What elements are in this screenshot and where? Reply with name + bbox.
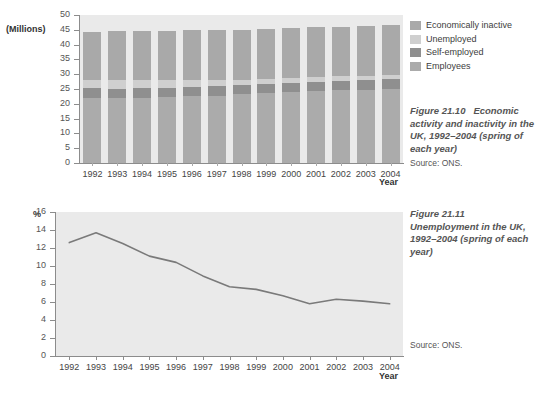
bar-column bbox=[233, 15, 251, 163]
bar-segment-economically-inactive bbox=[357, 26, 375, 75]
bar-chart-y-tick bbox=[74, 119, 79, 120]
line-chart-y-tick-label: 14 bbox=[24, 225, 46, 234]
bar-chart-x-tick bbox=[291, 163, 292, 166]
line-chart-y-tick-label: 0 bbox=[24, 351, 46, 360]
bar-segment-unemployed bbox=[208, 80, 226, 86]
bar-chart-x-tick bbox=[217, 163, 218, 166]
bar-chart-x-tick bbox=[167, 163, 168, 166]
bar-segment-employees bbox=[257, 93, 275, 163]
bar-column bbox=[208, 15, 226, 163]
bar-chart-x-tick bbox=[117, 163, 118, 166]
line-chart-x-tick bbox=[123, 356, 124, 360]
bar-segment-economically-inactive bbox=[282, 28, 300, 78]
bar-chart-unit-label: (Millions) bbox=[6, 24, 46, 34]
bar-segment-self-employed bbox=[83, 88, 101, 97]
bar-column bbox=[382, 15, 400, 163]
line-chart-plot-area bbox=[56, 212, 403, 356]
bar-column bbox=[357, 15, 375, 163]
line-chart-x-tick bbox=[310, 356, 311, 360]
bar-chart-y-tick bbox=[74, 133, 79, 134]
bar-segment-self-employed bbox=[108, 89, 126, 98]
bar-segment-self-employed bbox=[233, 85, 251, 94]
bar-segment-self-employed bbox=[133, 88, 151, 97]
bar-segment-unemployed bbox=[133, 80, 151, 88]
bar-column bbox=[183, 15, 201, 163]
line-chart-y-tick-label: 4 bbox=[24, 315, 46, 324]
bar-segment-economically-inactive bbox=[257, 29, 275, 79]
bar-segment-self-employed bbox=[332, 81, 350, 90]
bar-chart-y-tick-label: 35 bbox=[46, 54, 70, 63]
bar-chart-x-tick bbox=[366, 163, 367, 166]
bar-segment-employees bbox=[357, 90, 375, 163]
bar-chart-legend: Economically inactiveUnemployedSelf-empl… bbox=[410, 20, 535, 74]
line-chart-y-tick bbox=[50, 284, 55, 285]
bar-column bbox=[108, 15, 126, 163]
legend-item-label: Unemployed bbox=[426, 34, 477, 45]
bar-chart-y-tick bbox=[74, 104, 79, 105]
bar-chart-y-tick bbox=[74, 30, 79, 31]
line-chart-series-path bbox=[69, 233, 389, 304]
line-chart-x-tick bbox=[203, 356, 204, 360]
line-chart-y-tick bbox=[50, 356, 55, 357]
line-chart-x-tick bbox=[336, 356, 337, 360]
bar-segment-employees bbox=[332, 90, 350, 163]
bar-segment-unemployed bbox=[233, 80, 251, 85]
bar-chart-x-tick bbox=[192, 163, 193, 166]
bar-segment-employees bbox=[133, 98, 151, 163]
bar-segment-employees bbox=[233, 94, 251, 163]
bar-segment-unemployed bbox=[282, 78, 300, 83]
bar-segment-employees bbox=[208, 96, 226, 163]
bar-segment-economically-inactive bbox=[83, 32, 101, 80]
bar-chart-y-tick bbox=[74, 163, 79, 164]
bar-chart-x-tick bbox=[391, 163, 392, 166]
line-chart-x-tick bbox=[256, 356, 257, 360]
bar-segment-unemployed bbox=[83, 80, 101, 88]
bar-segment-employees bbox=[108, 98, 126, 163]
bar-segment-unemployed bbox=[158, 80, 176, 87]
legend-swatch-icon bbox=[410, 21, 421, 30]
bar-segment-self-employed bbox=[257, 84, 275, 93]
bar-column bbox=[257, 15, 275, 163]
bar-segment-economically-inactive bbox=[382, 25, 400, 74]
legend-item: Economically inactive bbox=[410, 20, 535, 31]
line-chart-x-tick bbox=[96, 356, 97, 360]
line-chart-y-tick-label: 10 bbox=[24, 261, 46, 270]
bar-segment-self-employed bbox=[307, 82, 325, 91]
line-chart-x-tick bbox=[230, 356, 231, 360]
line-chart-y-tick-label: 8 bbox=[24, 279, 46, 288]
bar-chart-x-axis-title: Year bbox=[379, 178, 398, 187]
bar-chart-y-tick-label: 25 bbox=[46, 84, 70, 93]
bar-column bbox=[307, 15, 325, 163]
bar-chart-y-tick-label: 5 bbox=[46, 143, 70, 152]
line-chart-x-tick bbox=[363, 356, 364, 360]
line-chart-series-svg bbox=[56, 212, 403, 356]
line-chart-y-tick bbox=[50, 338, 55, 339]
bar-segment-economically-inactive bbox=[208, 30, 226, 80]
bar-segment-economically-inactive bbox=[108, 31, 126, 80]
bar-chart-y-tick-label: 45 bbox=[46, 25, 70, 34]
legend-swatch-icon bbox=[410, 48, 421, 57]
figure-21-10-source: Source: ONS. bbox=[410, 157, 538, 170]
line-chart-y-tick bbox=[50, 248, 55, 249]
bar-segment-unemployed bbox=[183, 80, 201, 87]
figure-21-11-caption-text: Unemployment in the UK, 1992–2004 (sprin… bbox=[410, 221, 528, 257]
bar-segment-employees bbox=[307, 91, 325, 163]
bar-segment-economically-inactive bbox=[332, 27, 350, 76]
bar-segment-economically-inactive bbox=[158, 31, 176, 80]
bar-segment-unemployed bbox=[307, 77, 325, 81]
bar-segment-employees bbox=[282, 92, 300, 163]
bar-segment-unemployed bbox=[332, 76, 350, 80]
bar-chart-x-tick bbox=[242, 163, 243, 166]
line-chart-y-tick-label: 16 bbox=[24, 207, 46, 216]
figure-21-10-caption: Figure 21.10 Economic activity and inact… bbox=[410, 105, 538, 170]
bar-chart-x-tick bbox=[266, 163, 267, 166]
bar-chart-y-tick-label: 15 bbox=[46, 114, 70, 123]
bar-chart-x-tick bbox=[92, 163, 93, 166]
bar-chart-y-tick-label: 0 bbox=[46, 158, 70, 167]
bar-segment-employees bbox=[83, 98, 101, 163]
line-chart-y-tick bbox=[50, 320, 55, 321]
legend-item: Unemployed bbox=[410, 34, 535, 45]
bar-chart-y-tick-label: 30 bbox=[46, 69, 70, 78]
bar-chart-x-tick bbox=[142, 163, 143, 166]
line-chart-x-tick bbox=[283, 356, 284, 360]
